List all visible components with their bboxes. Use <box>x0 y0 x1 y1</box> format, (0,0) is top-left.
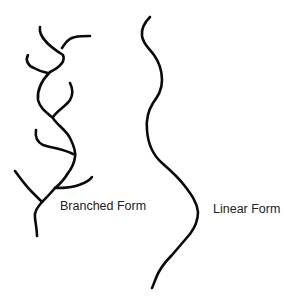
branch-upper-left-hook <box>27 55 48 73</box>
linear-form-label: Linear Form <box>213 203 280 216</box>
branch-top-right <box>62 36 90 48</box>
branch-mid-right-hook <box>53 83 72 117</box>
root-forms-illustration <box>0 0 296 301</box>
branched-form-label: Branched Form <box>60 200 146 213</box>
linear-form-drawing <box>142 17 198 288</box>
diagram-canvas: Branched Form Linear Form <box>0 0 296 301</box>
branch-bottom-left <box>15 171 42 202</box>
linear-wavy-line <box>142 17 198 288</box>
